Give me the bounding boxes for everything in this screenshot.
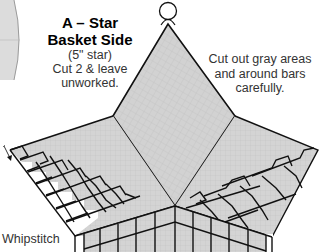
size-note: (5" star)	[32, 48, 148, 62]
note-line-3: carefully.	[200, 81, 320, 96]
note-line-1: Cut out gray areas	[200, 52, 320, 67]
whipstitch-label: Whipstitch	[2, 232, 60, 247]
note-line-2: and around bars	[200, 67, 320, 82]
arrow-down-icon	[3, 145, 12, 161]
cut-instruction-1: Cut 2 & leave	[32, 62, 148, 76]
piece-label: A – Star	[32, 14, 148, 31]
adjacent-piece-arc	[0, 0, 20, 80]
cut-instruction-2: unworked.	[32, 76, 148, 90]
cutting-note: Cut out gray areas and around bars caref…	[200, 52, 320, 96]
piece-title-block: A – Star Basket Side (5" star) Cut 2 & l…	[32, 14, 148, 90]
circle-icon	[160, 3, 177, 26]
piece-name: Basket Side	[32, 31, 148, 48]
